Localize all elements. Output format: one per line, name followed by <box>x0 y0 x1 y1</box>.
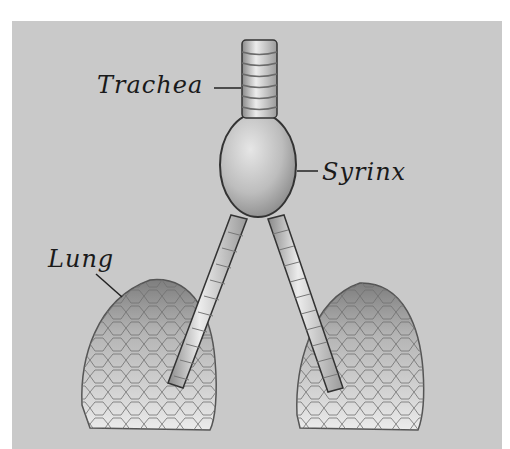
trachea-label: Trachea <box>97 73 203 97</box>
lung-label: Lung <box>48 247 114 271</box>
syrinx <box>220 113 296 217</box>
syrinx-label: Syrinx <box>322 160 406 184</box>
lung-leader-line <box>96 274 122 297</box>
trachea <box>242 40 277 118</box>
respiratory-illustration <box>0 0 510 449</box>
